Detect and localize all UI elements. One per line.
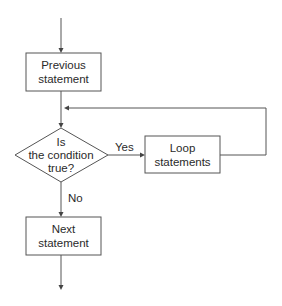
condition-line1: Is [57, 136, 66, 148]
loop-statements-node: Loop statements [145, 136, 220, 173]
previous-line2: statement [38, 73, 89, 85]
previous-statement-node: Previous statement [26, 53, 101, 91]
next-line1: Next [52, 223, 76, 235]
previous-line1: Previous [41, 59, 86, 71]
entry-arrow [59, 18, 64, 53]
next-line2: statement [38, 237, 89, 249]
yes-label: Yes [115, 141, 134, 153]
previous-to-condition-arrow [59, 91, 64, 128]
yes-arrow: Yes [108, 141, 145, 158]
loop-line1: Loop [170, 142, 196, 154]
condition-line3: true? [48, 162, 74, 174]
no-label: No [68, 192, 83, 204]
condition-node: Is the condition true? [15, 128, 108, 182]
condition-line2: the condition [28, 149, 93, 161]
next-statement-node: Next statement [26, 217, 101, 255]
exit-arrow [59, 255, 64, 290]
flowchart-canvas: Previous statement Is the condition true… [0, 0, 282, 306]
loop-line2: statements [154, 156, 210, 168]
no-arrow: No [59, 182, 83, 217]
